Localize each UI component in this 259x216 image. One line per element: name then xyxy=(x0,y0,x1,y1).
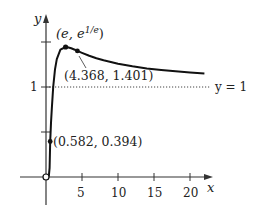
function-curve xyxy=(46,47,204,177)
point-second-label: (4.368, 1.401) xyxy=(64,68,153,83)
y-tick-label-1: 1 xyxy=(30,80,38,94)
chart-root: y x 1 y = 1 5 10 15 20 (e, e1/e) (4.368,… xyxy=(0,0,259,216)
point-inflection xyxy=(48,139,53,144)
origin-open-point xyxy=(43,174,49,180)
x-tick-label-5: 5 xyxy=(77,186,85,200)
x-axis-label: x xyxy=(207,180,215,195)
peak-label-exponent: 1/e xyxy=(85,25,99,35)
asymptote-label: y = 1 xyxy=(214,80,247,94)
y-axis-arrow-icon xyxy=(43,14,49,23)
point-second xyxy=(75,49,80,54)
x-tick-label-15: 15 xyxy=(147,186,162,200)
x-tick-label-20: 20 xyxy=(183,186,198,200)
peak-label-base: (e, e xyxy=(56,26,85,41)
chart-canvas: y x 1 y = 1 5 10 15 20 (e, e1/e) (4.368,… xyxy=(0,0,259,216)
point-peak xyxy=(63,44,68,49)
point-inflection-label: (0.582, 0.394) xyxy=(53,134,142,149)
peak-label-close: ) xyxy=(99,26,104,41)
y-axis-label: y xyxy=(33,11,42,26)
x-tick-label-10: 10 xyxy=(111,186,126,200)
leader-line xyxy=(79,56,86,68)
peak-label: (e, e1/e) xyxy=(56,25,104,41)
